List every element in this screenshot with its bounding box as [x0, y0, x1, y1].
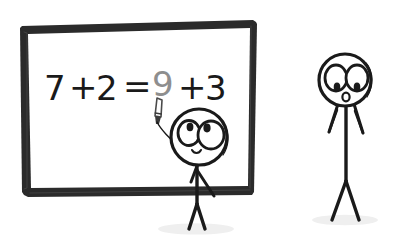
equation-token-3: 3 [205, 68, 227, 108]
equation-token-9: 9 [152, 64, 174, 104]
writer-eye-right [198, 121, 224, 149]
observer-pupil-right [354, 82, 361, 91]
equation-token-7: 7 [44, 68, 66, 108]
whiteboard[interactable] [20, 20, 257, 197]
writer-pupil-left [187, 123, 194, 131]
equation-token-equals: = [123, 66, 152, 106]
character-observer[interactable] [312, 54, 378, 225]
marker-band [155, 113, 161, 114]
scene-svg: Stick figure writing math on a whiteboar… [0, 0, 400, 244]
equation-token-2: 2 [96, 68, 118, 108]
observer-shoulder-right [355, 111, 363, 133]
illustration-canvas: Stick figure writing math on a whiteboar… [0, 0, 400, 244]
observer-shoulder-left [329, 110, 337, 132]
observer-leg-right [346, 181, 359, 220]
writer-ground-shadow-soft [158, 223, 234, 234]
observer-ground-shadow-soft [312, 215, 378, 225]
observer-leg-left [332, 181, 346, 220]
whiteboard-surface [28, 28, 250, 188]
observer-pupil-left [334, 82, 341, 91]
equation-token-plus-2: + [178, 67, 207, 107]
writer-pupil-right [203, 124, 210, 133]
equation-token-plus-1: + [69, 67, 98, 107]
observer-mouth [342, 93, 349, 102]
equation: 7 + 2 = 9 + 3 [44, 64, 227, 108]
